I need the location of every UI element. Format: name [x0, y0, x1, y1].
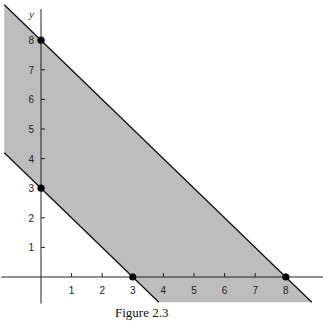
y-tick-label: 3 [28, 183, 34, 194]
x-tick-label: 3 [130, 285, 136, 296]
y-tick-label: 1 [28, 242, 34, 253]
marked-point [37, 37, 44, 44]
x-tick-label: 8 [283, 285, 289, 296]
y-axis-label: y [28, 8, 34, 20]
y-tick-label: 4 [28, 154, 34, 165]
x-tick-label: 6 [222, 285, 228, 296]
marked-point [37, 185, 44, 192]
y-tick-label: 5 [28, 124, 34, 135]
x-tick-label: 1 [69, 285, 75, 296]
y-tick-label: 8 [28, 35, 34, 46]
x-tick-label: 7 [252, 285, 258, 296]
marked-point [129, 273, 136, 280]
x-tick-label: 4 [161, 285, 167, 296]
figure-caption: Figure 2.3 [115, 305, 168, 321]
x-tick-label: 2 [99, 285, 105, 296]
x-tick-label: 5 [191, 285, 197, 296]
y-tick-label: 6 [28, 94, 34, 105]
y-tick-label: 7 [28, 65, 34, 76]
y-tick-label: 2 [28, 213, 34, 224]
marked-point [282, 273, 289, 280]
